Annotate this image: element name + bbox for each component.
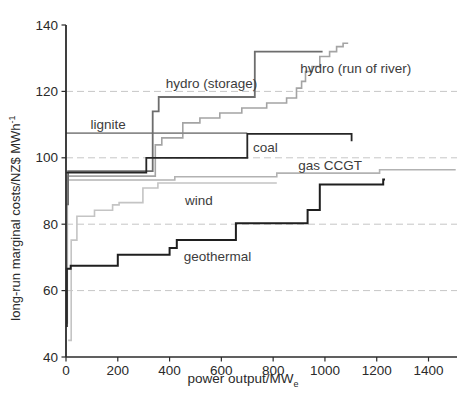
series-label-geothermal: geothermal: [184, 249, 252, 264]
series-label-gas-ccgt: gas CCGT: [298, 158, 362, 173]
x-tick-label-200: 200: [107, 363, 130, 378]
chart-canvas: 0200400600800100012001400406080100120140…: [0, 0, 466, 402]
y-axis-title: long-run marginal costs/NZ$ MWh-1: [7, 115, 23, 320]
y-tick-label-60: 60: [43, 283, 58, 298]
y-tick-label-80: 80: [43, 217, 58, 232]
series-label-lignite: lignite: [91, 117, 126, 132]
y-tick-label-40: 40: [43, 350, 58, 365]
x-axis-title: power output/MWe: [188, 371, 299, 389]
x-tick-label-1200: 1200: [362, 363, 392, 378]
x-tick-label-1400: 1400: [413, 363, 443, 378]
series-label-wind: wind: [184, 193, 213, 208]
chart-figure: 0200400600800100012001400406080100120140…: [0, 0, 466, 402]
x-tick-label-1000: 1000: [310, 363, 340, 378]
y-tick-label-100: 100: [35, 150, 58, 165]
x-tick-label-0: 0: [62, 363, 70, 378]
series-label-hydro-run-of-river-: hydro (run of river): [300, 61, 411, 76]
series-label-coal: coal: [253, 140, 278, 155]
y-tick-label-120: 120: [35, 84, 58, 99]
x-axis-title-subscript: e: [293, 379, 298, 389]
x-tick-label-400: 400: [158, 363, 181, 378]
series-label-hydro-storage-: hydro (storage): [166, 76, 258, 91]
y-tick-label-140: 140: [35, 18, 58, 33]
y-axis-title-superscript: -1: [7, 115, 17, 123]
